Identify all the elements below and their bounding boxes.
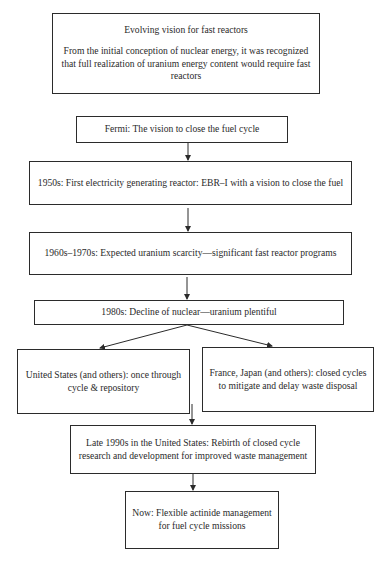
fermi-text: Fermi: The vision to close the fuel cycl… bbox=[105, 123, 260, 136]
node-united-states: United States (and others): once through… bbox=[17, 349, 190, 414]
intro-text: From the initial conception of nuclear e… bbox=[59, 45, 313, 83]
node-1980s: 1980s: Decline of nuclear—uranium plenti… bbox=[34, 300, 344, 325]
node-now: Now: Flexible actinide management for fu… bbox=[125, 491, 279, 549]
late1990s-text: Late 1990s in the United States: Rebirth… bbox=[77, 437, 309, 463]
node-late-1990s: Late 1990s in the United States: Rebirth… bbox=[70, 425, 316, 474]
arrow-1980s-to-us bbox=[100, 325, 187, 348]
intro-title: Evolving vision for fast reactors bbox=[124, 24, 248, 37]
1950s-text: 1950s: First electricity generating reac… bbox=[38, 177, 343, 190]
node-1960s-1970s: 1960s–1970s: Expected uranium scarcity—s… bbox=[29, 232, 352, 275]
node-france-japan: France, Japan (and others): closed cycle… bbox=[202, 347, 374, 412]
france-text: France, Japan (and others): closed cycle… bbox=[209, 367, 367, 393]
node-1950s: 1950s: First electricity generating reac… bbox=[29, 161, 352, 205]
node-fermi: Fermi: The vision to close the fuel cycl… bbox=[76, 116, 288, 143]
node-intro: Evolving vision for fast reactors From t… bbox=[52, 13, 320, 94]
1980s-text: 1980s: Decline of nuclear—uranium plenti… bbox=[101, 306, 276, 319]
arrow-1980s-to-france bbox=[187, 325, 272, 346]
us-text: United States (and others): once through… bbox=[24, 369, 183, 395]
now-text: Now: Flexible actinide management for fu… bbox=[132, 507, 272, 533]
1960s-text: 1960s–1970s: Expected uranium scarcity—s… bbox=[45, 247, 337, 260]
